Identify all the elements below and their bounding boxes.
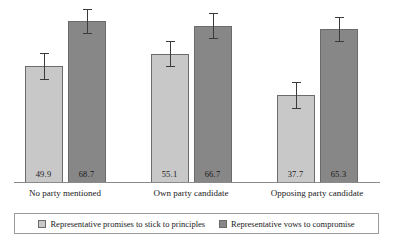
- error-bar-cap-top: [83, 9, 92, 10]
- bar-value-label: 68.7: [69, 170, 105, 179]
- legend-item-1: Representative vows to compromise: [219, 219, 354, 229]
- bar-compromise-2: 65.3: [320, 29, 358, 183]
- error-bar-cap-top: [335, 17, 344, 18]
- bar-principles-0: 49.9: [25, 66, 63, 183]
- error-bar-cap-top: [40, 53, 49, 54]
- error-bar-stem: [44, 53, 45, 79]
- error-bar-cap-top: [166, 41, 175, 42]
- legend-label: Representative promises to stick to prin…: [50, 219, 205, 229]
- error-bar-stem: [339, 17, 340, 42]
- bar-value-label: 55.1: [152, 170, 188, 179]
- x-axis-line: [14, 182, 380, 183]
- legend-swatch-icon: [38, 220, 46, 228]
- bar-compromise-1: 66.7: [194, 26, 232, 183]
- legend-item-0: Representative promises to stick to prin…: [38, 219, 205, 229]
- error-bar-stem: [170, 41, 171, 66]
- error-bar-cap-bottom: [209, 38, 218, 39]
- bar-chart-figure: 49.968.755.166.737.765.3 No party mentio…: [0, 0, 395, 245]
- error-bar-stem: [296, 82, 297, 108]
- error-bar-cap-bottom: [83, 33, 92, 34]
- error-bar-cap-bottom: [166, 66, 175, 67]
- bar-value-label: 66.7: [195, 170, 231, 179]
- bar-value-label: 49.9: [26, 170, 62, 179]
- error-bar-cap-bottom: [40, 79, 49, 80]
- error-bar-stem: [87, 9, 88, 34]
- bar-value-label: 37.7: [278, 170, 314, 179]
- legend-swatch-icon: [219, 220, 227, 228]
- x-axis-tick-labels: No party mentionedOwn party candidateOpp…: [0, 186, 395, 204]
- x-axis-label-2: Opposing party candidate: [237, 186, 395, 200]
- bar-principles-1: 55.1: [151, 54, 189, 183]
- legend-label: Representative vows to compromise: [231, 219, 354, 229]
- bar-value-label: 65.3: [321, 170, 357, 179]
- error-bar-stem: [213, 13, 214, 38]
- error-bar-cap-top: [209, 13, 218, 14]
- error-bar-cap-top: [292, 82, 301, 83]
- error-bar-cap-bottom: [292, 108, 301, 109]
- chart-legend: Representative promises to stick to prin…: [14, 213, 379, 234]
- bar-compromise-0: 68.7: [68, 21, 106, 183]
- plot-area: 49.968.755.166.737.765.3: [0, 0, 395, 186]
- error-bar-cap-bottom: [335, 41, 344, 42]
